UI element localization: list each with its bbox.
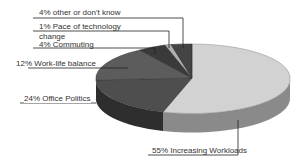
label-politics: 24% Office Politics: [24, 94, 91, 103]
label-commuting: 4% Commuting: [39, 40, 94, 49]
label-pace: 1% Pace of technology: [39, 22, 121, 31]
label-other: 4% other or don't know: [39, 8, 121, 17]
label-worklife: 12% Work-life balance: [16, 59, 96, 68]
label-workloads: 55% Increasing Workloads: [152, 146, 247, 155]
pie-top: [96, 44, 290, 114]
